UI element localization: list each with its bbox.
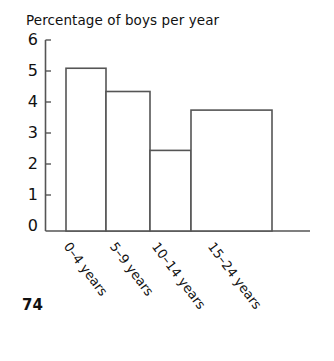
bar-15-24-years	[191, 110, 272, 231]
bar-0-4-years	[66, 68, 106, 231]
y-axis-ticks	[46, 40, 52, 195]
page-number: 74	[22, 296, 43, 314]
chart-plot-area	[0, 0, 334, 361]
bar-10-14-years	[150, 150, 191, 231]
bar-chart-figure: Percentage of boys per year 6 5 4 3 2 1 …	[0, 0, 334, 361]
bar-5-9-years	[106, 92, 150, 232]
